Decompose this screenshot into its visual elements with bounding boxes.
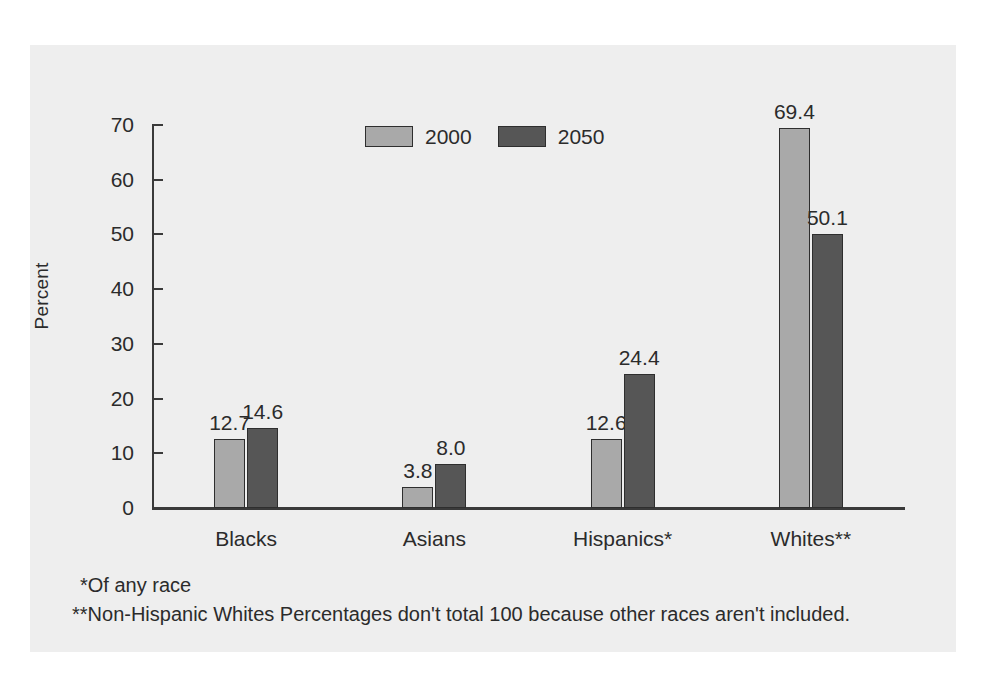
bar-asians-2000 [402, 487, 433, 508]
bar-blacks-2000 [214, 439, 245, 508]
bar-value-label: 14.6 [228, 401, 298, 422]
x-axis-category-label: Asians [334, 528, 534, 549]
chart-figure: Percent 706050403020100 2000 2050 12.714… [0, 0, 987, 697]
footnote-non-hispanic-whites: **Non-Hispanic Whites Percentages don't … [72, 600, 942, 629]
bar-hispanics-2000 [591, 439, 622, 508]
bar-whites-2000 [779, 128, 810, 508]
bar-value-label: 69.4 [759, 101, 829, 122]
y-axis-tick [152, 124, 163, 126]
legend-swatch-2050-icon [498, 126, 546, 147]
legend-entry-2000: 2000 [365, 126, 472, 147]
y-axis-tick [152, 179, 163, 181]
y-axis-tick-label: 60 [92, 169, 134, 190]
bar-asians-2050 [435, 464, 466, 508]
y-axis-tick-label: 20 [92, 388, 134, 409]
y-axis-tick [152, 233, 163, 235]
y-axis-tick [152, 398, 163, 400]
y-axis-tick-label: 0 [92, 497, 134, 518]
chart-footnotes: *Of any race **Non-Hispanic Whites Perce… [72, 571, 942, 629]
y-axis-tick [152, 507, 163, 509]
y-axis-tick-label: 10 [92, 442, 134, 463]
x-axis-category-label: Blacks [146, 528, 346, 549]
bar-value-label: 8.0 [416, 437, 486, 458]
chart-legend: 2000 2050 [365, 126, 604, 147]
bar-value-label: 50.1 [792, 207, 862, 228]
legend-swatch-2000-icon [365, 126, 413, 147]
legend-label-2000: 2000 [425, 126, 472, 147]
bar-blacks-2050 [247, 428, 278, 508]
x-axis-category-label: Hispanics* [523, 528, 723, 549]
y-axis-tick-label: 50 [92, 223, 134, 244]
footnote-any-race: *Of any race [72, 571, 942, 600]
legend-entry-2050: 2050 [498, 126, 605, 147]
y-axis-tick [152, 288, 163, 290]
y-axis-tick-label: 30 [92, 333, 134, 354]
x-axis-category-label: Whites** [711, 528, 911, 549]
bar-value-label: 24.4 [604, 347, 674, 368]
bar-whites-2050 [812, 234, 843, 508]
y-axis-tick [152, 452, 163, 454]
bar-hispanics-2050 [624, 374, 655, 508]
y-axis-tick-label: 70 [92, 114, 134, 135]
legend-label-2050: 2050 [558, 126, 605, 147]
y-axis-tick [152, 343, 163, 345]
y-axis-tick-label: 40 [92, 278, 134, 299]
y-axis-title: Percent [31, 236, 53, 356]
